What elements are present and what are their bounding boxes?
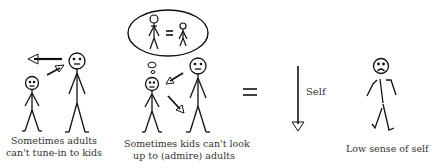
panel-adults-tune-in <box>22 53 89 132</box>
bubble-adult-figure-icon <box>149 15 159 49</box>
caption-line: up to (admire) adults <box>124 150 244 162</box>
caption-line: Sometimes kids can't look <box>124 138 244 150</box>
down-left-arrow-icon <box>166 73 183 84</box>
caption-low-self: Low sense of self <box>346 143 426 155</box>
equals-icon <box>243 89 257 95</box>
sad-figure-icon <box>367 59 396 131</box>
down-right-arrow-icon <box>168 96 184 113</box>
panel-kids-look-up <box>128 10 210 132</box>
adult-figure-icon <box>65 53 89 132</box>
left-arrow-icon <box>28 54 62 64</box>
bubble-equals-icon <box>166 31 173 35</box>
adult-figure-icon <box>186 58 210 132</box>
caption-line: can't tune-in to kids <box>4 147 104 159</box>
thought-dots-icon <box>148 62 156 73</box>
caption-kids-look-up: Sometimes kids can't look up to (admire)… <box>124 138 244 162</box>
caption-line: Sometimes adults <box>4 135 104 147</box>
caption-adults-tune-in: Sometimes adults can't tune-in to kids <box>4 135 104 159</box>
bubble-kid-figure-icon <box>179 23 187 46</box>
up-right-arrow-icon <box>47 65 64 75</box>
sad-kid-figure-icon <box>142 78 162 133</box>
self-label: Self <box>306 86 326 97</box>
thought-bubble <box>128 10 208 56</box>
down-arrow-icon <box>292 66 304 131</box>
caption-line: Low sense of self <box>346 143 426 155</box>
kid-figure-icon <box>22 77 42 132</box>
